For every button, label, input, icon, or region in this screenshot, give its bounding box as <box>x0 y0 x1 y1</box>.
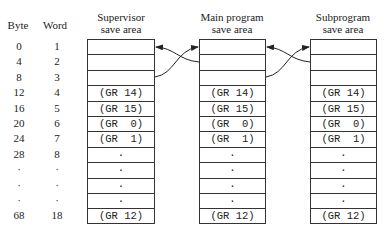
chain-pointer-arrows <box>0 0 385 234</box>
forward-pointer-arrow <box>155 47 198 77</box>
forward-pointer-arrow <box>266 47 309 77</box>
